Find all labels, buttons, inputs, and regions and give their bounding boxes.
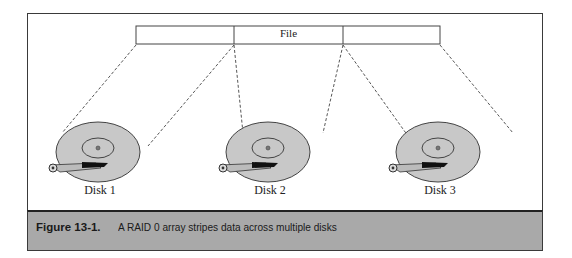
figure-number: Figure 13-1. bbox=[36, 221, 101, 233]
disk-3-label: Disk 3 bbox=[410, 183, 470, 198]
figure-caption-text: A RAID 0 array stripes data across multi… bbox=[118, 221, 337, 233]
file-label: File bbox=[234, 27, 343, 39]
disk-1-icon bbox=[49, 122, 140, 182]
disk-2-icon bbox=[219, 122, 310, 182]
disk-3-icon bbox=[389, 122, 480, 182]
figure-caption: Figure 13-1. A RAID 0 array stripes data… bbox=[27, 210, 543, 251]
disk-2-label: Disk 2 bbox=[240, 183, 300, 198]
disk-1-label: Disk 1 bbox=[70, 183, 130, 198]
